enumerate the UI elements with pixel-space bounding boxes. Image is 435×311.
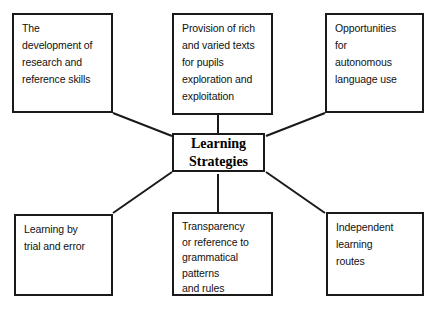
node-label: Opportunities for autonomous language us…	[335, 20, 419, 88]
node-grammatical-patterns: Transparency or reference to grammatical…	[172, 212, 273, 296]
connector-top-left	[113, 113, 172, 136]
node-autonomous-language-use: Opportunities for autonomous language us…	[325, 13, 424, 113]
node-rich-varied-texts: Provision of rich and varied texts for p…	[172, 13, 273, 115]
node-label: The development of research and referenc…	[22, 20, 108, 88]
node-trial-and-error: Learning by trial and error	[14, 214, 113, 296]
center-node-label: Learning Strategies	[189, 135, 248, 171]
connector-bottom-left	[113, 172, 172, 213]
node-label: Transparency or reference to grammatical…	[182, 219, 268, 297]
node-label: Independent learning routes	[336, 219, 419, 270]
connector-top-right	[266, 113, 325, 136]
node-independent-learning-routes: Independent learning routes	[326, 212, 424, 296]
connector-bottom-right	[266, 172, 325, 213]
node-label: Provision of rich and varied texts for p…	[182, 20, 268, 105]
node-research-reference-skills: The development of research and referenc…	[12, 13, 113, 113]
learning-strategies-diagram: The development of research and referenc…	[0, 0, 435, 311]
node-label: Learning by trial and error	[24, 221, 108, 255]
node-learning-strategies: Learning Strategies	[172, 133, 265, 172]
